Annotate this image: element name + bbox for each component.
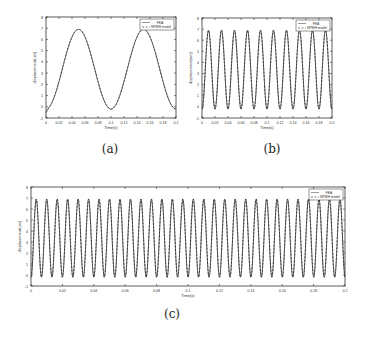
y-tick-label: 7 bbox=[26, 197, 28, 201]
y-tick-label: 4 bbox=[41, 60, 43, 64]
y-tick-label: 2 bbox=[41, 83, 43, 87]
x-tick-label: 0.12 bbox=[216, 289, 223, 293]
y-tick-label: -1 bbox=[196, 117, 199, 121]
y-tick-label: -1 bbox=[40, 117, 43, 121]
y-axis-label: displacement(um) bbox=[188, 51, 193, 83]
plot-frame bbox=[202, 18, 332, 118]
legend: FEANPMH model bbox=[140, 19, 174, 30]
x-tick-label: 0.06 bbox=[82, 121, 89, 125]
x-tick-label: 0.08 bbox=[95, 121, 102, 125]
caption-b: (b) bbox=[252, 142, 292, 156]
x-tick-label: 0.2 bbox=[330, 121, 335, 125]
x-tick-label: 0.2 bbox=[174, 121, 179, 125]
y-tick-label: 1 bbox=[41, 94, 43, 98]
x-tick-label: 0.02 bbox=[212, 121, 219, 125]
figure-c: -101234567800.020.040.060.080.10.120.140… bbox=[0, 175, 366, 348]
caption-a: (a) bbox=[90, 142, 130, 156]
y-tick-label: 6 bbox=[26, 208, 28, 212]
x-tick-label: 0.02 bbox=[59, 289, 66, 293]
y-tick-label: 5 bbox=[26, 219, 28, 223]
y-axis-label: displacement(um) bbox=[32, 51, 37, 83]
plot-b: -101234567800.020.040.060.080.10.120.140… bbox=[183, 0, 366, 140]
x-tick-label: 0.14 bbox=[247, 289, 254, 293]
x-tick-label: 0.16 bbox=[147, 121, 154, 125]
caption-c: (c) bbox=[152, 307, 192, 321]
y-tick-label: 1 bbox=[26, 263, 28, 267]
x-tick-label: 0.18 bbox=[160, 121, 167, 125]
legend: FEANPMH model bbox=[309, 189, 343, 200]
x-tick-label: 0.14 bbox=[290, 121, 297, 125]
legend-entry-fea: FEA bbox=[326, 191, 333, 195]
x-tick-label: 0.2 bbox=[343, 289, 348, 293]
x-tick-label: 0.18 bbox=[310, 289, 317, 293]
figure-b: -101234567800.020.040.060.080.10.120.140… bbox=[183, 0, 366, 165]
x-tick-label: 0.18 bbox=[316, 121, 323, 125]
x-tick-label: 0.12 bbox=[277, 121, 284, 125]
legend-entry-npmh: NPMH model bbox=[307, 26, 327, 30]
x-tick-label: 0.02 bbox=[56, 121, 63, 125]
x-tick-label: 0.04 bbox=[225, 121, 232, 125]
x-tick-label: 0.08 bbox=[251, 121, 258, 125]
x-tick-label: 0.16 bbox=[303, 121, 310, 125]
y-tick-label: 8 bbox=[41, 16, 43, 20]
y-tick-label: 4 bbox=[197, 61, 199, 65]
x-tick-label: 0 bbox=[30, 289, 32, 293]
plot-c: -101234567800.020.040.060.080.10.120.140… bbox=[0, 175, 366, 300]
y-tick-label: 2 bbox=[197, 83, 199, 87]
plot-frame bbox=[46, 17, 176, 118]
x-tick-label: 0.12 bbox=[121, 121, 128, 125]
legend-entry-npmh: NPMH model bbox=[320, 195, 340, 199]
x-axis-label: Time(s) bbox=[181, 293, 195, 298]
y-tick-label: 5 bbox=[197, 50, 199, 54]
x-tick-label: 0.06 bbox=[122, 289, 129, 293]
plot-a: -101234567800.020.040.060.080.10.120.140… bbox=[0, 0, 183, 140]
x-tick-label: 0.04 bbox=[90, 289, 97, 293]
plot-frame bbox=[31, 187, 345, 286]
legend-entry-fea: FEA bbox=[313, 22, 320, 26]
y-tick-label: 0 bbox=[197, 105, 199, 109]
y-tick-label: 5 bbox=[41, 49, 43, 53]
y-tick-label: 7 bbox=[41, 27, 43, 31]
figure-a: -101234567800.020.040.060.080.10.120.140… bbox=[0, 0, 183, 165]
y-tick-label: 0 bbox=[41, 105, 43, 109]
y-tick-label: 2 bbox=[26, 252, 28, 256]
legend: FEANPMH model bbox=[296, 20, 330, 31]
y-tick-label: 3 bbox=[26, 241, 28, 245]
y-axis-label: displacement(um) bbox=[17, 220, 22, 252]
y-tick-label: 6 bbox=[41, 38, 43, 42]
x-tick-label: 0.08 bbox=[153, 289, 160, 293]
y-tick-label: 7 bbox=[197, 28, 199, 32]
x-axis-label: Time(s) bbox=[104, 125, 118, 130]
x-tick-label: 0.06 bbox=[238, 121, 245, 125]
y-tick-label: 8 bbox=[26, 186, 28, 190]
x-tick-label: 0.04 bbox=[69, 121, 76, 125]
x-tick-label: 0.14 bbox=[134, 121, 141, 125]
y-tick-label: 6 bbox=[197, 39, 199, 43]
y-tick-label: 0 bbox=[26, 274, 28, 278]
x-tick-label: 0 bbox=[201, 121, 203, 125]
x-axis-label: Time(s) bbox=[260, 125, 274, 130]
legend-entry-npmh: NPMH model bbox=[151, 25, 171, 29]
y-tick-label: 3 bbox=[41, 72, 43, 76]
x-tick-label: 0.16 bbox=[279, 289, 286, 293]
y-tick-label: 3 bbox=[197, 72, 199, 76]
legend-entry-fea: FEA bbox=[157, 21, 164, 25]
y-tick-label: -1 bbox=[25, 285, 28, 289]
y-tick-label: 8 bbox=[197, 17, 199, 21]
y-tick-label: 1 bbox=[197, 94, 199, 98]
x-tick-label: 0 bbox=[45, 121, 47, 125]
y-tick-label: 4 bbox=[26, 230, 28, 234]
